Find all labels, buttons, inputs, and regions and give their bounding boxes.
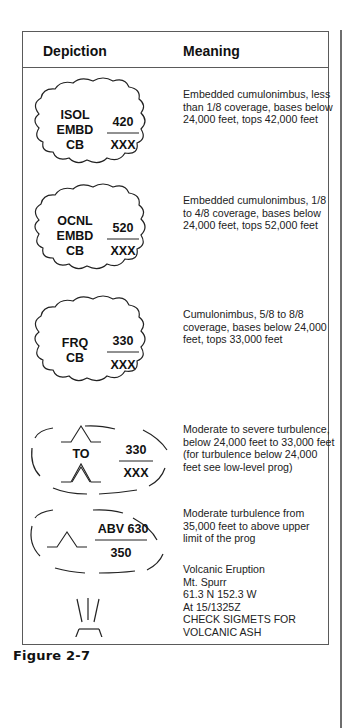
table-row: OCNL EMBD CB 520 XXX Embedded cumulonimb…: [23, 182, 328, 297]
cloud-symbol-icon: ISOL EMBD CB 420 XXX: [23, 68, 173, 186]
row-meaning: Embedded cumulonimbus, 1/8 to 4/8 covera…: [183, 194, 325, 232]
header-meaning: Meaning: [183, 43, 240, 59]
svg-text:CB: CB: [66, 351, 84, 365]
svg-text:XXX: XXX: [123, 466, 149, 480]
svg-text:ABV 630: ABV 630: [98, 522, 149, 536]
svg-text:330: 330: [126, 443, 147, 457]
svg-text:420: 420: [113, 115, 134, 129]
table-row: FRQ CB 330 XXX Cumulonimbus, 5/8 to 8/8 …: [23, 294, 328, 404]
row-meaning: Embedded cumulonimbus, less than 1/8 cov…: [183, 88, 325, 126]
row-meaning: Cumulonimbus, 5/8 to 8/8 coverage, bases…: [183, 308, 325, 346]
row-meaning: Moderate turbulence from 35,000 feet to …: [183, 507, 325, 545]
svg-text:EMBD: EMBD: [57, 229, 94, 243]
volcano-icon: [23, 547, 173, 637]
svg-text:FRQ: FRQ: [62, 336, 89, 350]
svg-text:XXX: XXX: [110, 138, 136, 152]
table-row: TO 330 XXX Moderate to severe turbulence…: [23, 402, 328, 502]
table-row: ISOL EMBD CB 420 XXX Embedded cumulonimb…: [23, 68, 328, 186]
svg-text:CB: CB: [66, 244, 84, 258]
symbol-legend-table: Depiction Meaning ISOL EMBD CB 420 XXX E…: [22, 31, 329, 645]
turbulence-area-icon: TO 330 XXX: [23, 402, 183, 502]
svg-text:520: 520: [113, 221, 134, 235]
row-meaning: Volcanic Eruption Mt. Spurr 61.3 N 152.3…: [183, 563, 325, 639]
table-row: Volcanic Eruption Mt. Spurr 61.3 N 152.3…: [23, 587, 328, 644]
svg-text:EMBD: EMBD: [57, 123, 94, 137]
header-depiction: Depiction: [43, 43, 107, 59]
cloud-symbol-icon: FRQ CB 330 XXX: [23, 294, 173, 404]
figure-caption: Figure 2-7: [13, 648, 90, 663]
svg-text:XXX: XXX: [110, 358, 136, 372]
cloud-symbol-icon: OCNL EMBD CB 520 XXX: [23, 182, 173, 297]
table-header: Depiction Meaning: [23, 32, 328, 68]
page-column-rule: [340, 30, 342, 728]
svg-text:OCNL: OCNL: [57, 214, 93, 228]
row-meaning: Moderate to severe turbulence, below 24,…: [183, 423, 325, 473]
svg-text:CB: CB: [66, 138, 84, 152]
svg-text:ISOL: ISOL: [60, 108, 90, 122]
svg-text:330: 330: [113, 334, 134, 348]
svg-text:TO: TO: [72, 447, 89, 461]
svg-text:XXX: XXX: [110, 244, 136, 258]
